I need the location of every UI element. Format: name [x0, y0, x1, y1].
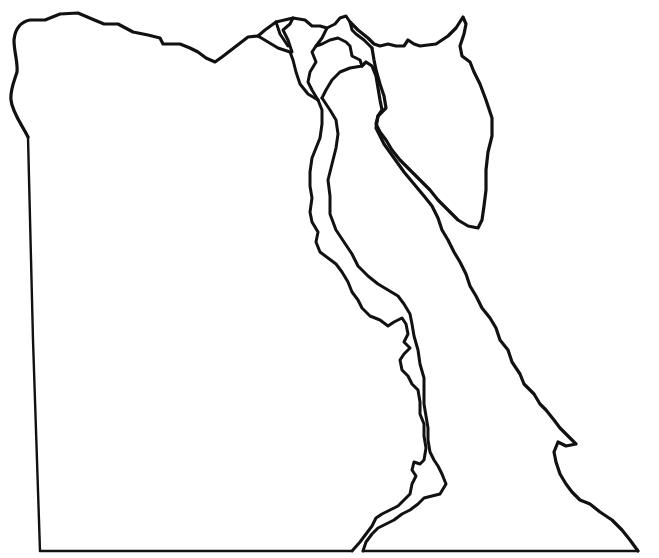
egypt-outline-map	[0, 0, 659, 558]
north-coast	[11, 13, 258, 137]
nile-delta-damietta-branch	[293, 18, 327, 100]
west-border	[28, 137, 40, 551]
nile-delta-east-branch	[316, 38, 362, 98]
red-sea-coast	[372, 48, 638, 551]
